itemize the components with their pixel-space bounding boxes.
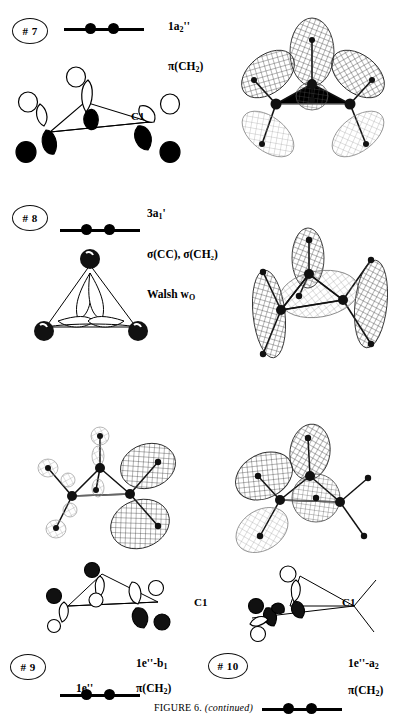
atom-label-c1-10: C1 — [342, 596, 355, 608]
electron-dot — [85, 23, 96, 34]
walsh-subscript: O — [189, 293, 195, 302]
entry-badge-9: # 9 — [10, 654, 46, 680]
figure-page: # 7 1a2'' π(CH2) — [0, 0, 407, 726]
level-line — [60, 229, 140, 232]
orbital-schematic-7 — [10, 60, 190, 170]
orbital-schematic-9 — [40, 560, 190, 640]
orbital-surface-10 — [228, 428, 407, 558]
entry-badge-8: # 8 — [12, 205, 48, 231]
atom-label-c1-7: C1 — [131, 110, 144, 122]
orbital-surface-8 — [245, 232, 405, 382]
occupancy-level-8 — [60, 223, 140, 237]
orbital-surface-7 — [232, 12, 402, 172]
character-label-9: π(CH2) — [136, 682, 171, 697]
orbital-schematic-8 — [28, 245, 158, 345]
level-line — [64, 28, 144, 31]
character-label-10: π(CH2) — [348, 684, 383, 699]
occupancy-level-9 — [60, 688, 140, 702]
atom-label-c1-9: C1 — [194, 596, 207, 608]
electron-dot — [108, 23, 119, 34]
occupancy-level-7 — [64, 22, 144, 36]
figure-caption: FIGURE 6. (continued) — [0, 702, 407, 713]
symmetry-label-8: 3a1' — [147, 207, 166, 222]
symmetry-label-7: 1a2'' — [168, 20, 190, 35]
figure-caption-main: FIGURE 6. — [154, 702, 202, 713]
figure-caption-note: (continued) — [205, 702, 253, 713]
electron-dot — [104, 689, 115, 700]
entry-badge-7: # 7 — [12, 18, 48, 44]
orbital-schematic-10 — [242, 562, 392, 642]
entry-badge-10: # 10 — [208, 653, 248, 679]
level-line — [60, 694, 140, 697]
symmetry-label-9: 1e''-b1 — [136, 657, 167, 672]
degenerate-label-9: 1e'' — [76, 682, 93, 695]
orbital-surface-9 — [12, 428, 202, 558]
electron-dot — [104, 224, 115, 235]
symmetry-label-10: 1e''-a2 — [348, 657, 379, 672]
electron-dot — [81, 224, 92, 235]
